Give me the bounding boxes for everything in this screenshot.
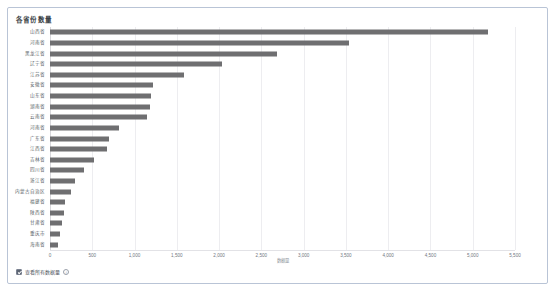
y-axis-label: 江西省	[30, 146, 45, 152]
y-axis-label: 安徽省	[30, 82, 45, 88]
bar[interactable]	[50, 168, 84, 173]
bar[interactable]	[50, 94, 151, 99]
legend-label: 查看所有数据量	[25, 269, 60, 276]
bar[interactable]	[50, 147, 107, 152]
gridline	[261, 27, 262, 250]
y-axis-label: 甘肃省	[30, 220, 45, 226]
chart-card: 各省份数量 山西省河南省黑龙江省辽宁省江苏省安徽省山东省湖南省云南省河南省广东省…	[7, 7, 548, 284]
bar[interactable]	[50, 72, 184, 77]
y-axis-label: 陕西省	[30, 210, 45, 216]
bar[interactable]	[50, 210, 64, 215]
gridline	[388, 27, 389, 250]
info-icon[interactable]: i	[63, 269, 69, 275]
y-axis-label: 河南省	[30, 125, 45, 131]
y-axis-label: 河南省	[30, 40, 45, 46]
gridline	[473, 27, 474, 250]
y-axis-label: 浙江省	[30, 178, 45, 184]
gridline	[430, 27, 431, 250]
gridline	[135, 27, 136, 250]
gridline	[177, 27, 178, 250]
bar[interactable]	[50, 104, 150, 109]
bar[interactable]	[50, 125, 119, 130]
gridline	[304, 27, 305, 250]
gridline	[219, 27, 220, 250]
y-axis-label: 四川省	[30, 167, 45, 173]
y-axis-label: 山东省	[30, 93, 45, 99]
bar[interactable]	[50, 221, 62, 226]
x-axis-title: 数据量	[50, 258, 515, 264]
bar[interactable]	[50, 232, 60, 237]
chart-footer: 查看所有数据量 i	[16, 267, 69, 277]
y-axis-labels: 山西省河南省黑龙江省辽宁省江苏省安徽省山东省湖南省云南省河南省广东省江西省吉林省…	[8, 27, 48, 250]
y-axis-label: 重庆市	[30, 231, 45, 237]
y-axis-label: 福建省	[30, 199, 45, 205]
bar[interactable]	[50, 40, 349, 45]
y-axis-label: 内蒙古自治区	[15, 189, 45, 195]
gridline	[515, 27, 516, 250]
plot-area	[50, 27, 515, 250]
show-all-data-checkbox[interactable]	[16, 269, 22, 275]
bar[interactable]	[50, 178, 75, 183]
bar[interactable]	[50, 157, 94, 162]
y-axis-label: 云南省	[30, 114, 45, 120]
bar[interactable]	[50, 83, 153, 88]
y-axis-label: 辽宁省	[30, 61, 45, 67]
y-axis-label: 湖南省	[30, 104, 45, 110]
bar[interactable]	[50, 30, 488, 35]
bar[interactable]	[50, 200, 65, 205]
gridline	[346, 27, 347, 250]
bar[interactable]	[50, 62, 222, 67]
bar[interactable]	[50, 242, 58, 247]
bar[interactable]	[50, 136, 109, 141]
y-axis-label: 黑龙江省	[25, 51, 45, 57]
y-axis-label: 江苏省	[30, 72, 45, 78]
y-axis-label: 广东省	[30, 136, 45, 142]
y-axis-label: 海南省	[30, 242, 45, 248]
bar[interactable]	[50, 115, 147, 120]
bar[interactable]	[50, 189, 71, 194]
y-axis-label: 吉林省	[30, 157, 45, 163]
y-axis-label: 山西省	[30, 29, 45, 35]
page-title: 各省份数量	[16, 15, 52, 24]
bar[interactable]	[50, 51, 277, 56]
